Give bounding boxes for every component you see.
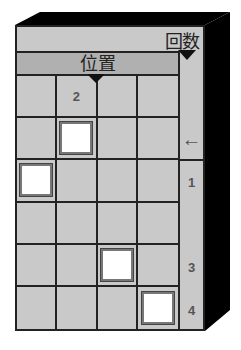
count-column: ← 1 3 4 — [180, 51, 203, 329]
position-grid: 2 — [17, 76, 180, 329]
count-value: 3 — [188, 260, 195, 275]
grid-cell — [98, 118, 138, 160]
grid-cell — [17, 76, 57, 118]
grid-cell — [17, 160, 57, 202]
white-square — [142, 292, 174, 324]
grid-cell — [17, 118, 57, 160]
grid-cell — [98, 203, 138, 245]
position-label: 位置 — [80, 53, 116, 74]
grid-cell — [57, 203, 97, 245]
grid-cell — [138, 160, 178, 202]
grid-cell — [57, 245, 97, 287]
diagram-panel: 回数 位置 2 ← — [15, 25, 205, 331]
grid-cell — [138, 118, 178, 160]
grid-cell — [138, 287, 178, 329]
grid-cell — [17, 203, 57, 245]
count-cell-row6: 4 — [180, 289, 203, 331]
left-arrow-icon: ← — [182, 128, 202, 151]
grid-cell — [98, 160, 138, 202]
grid-cell — [138, 76, 178, 118]
position-header: 位置 — [17, 51, 180, 76]
white-square — [20, 164, 52, 196]
grid-cell — [17, 287, 57, 329]
count-cell-row2: ← — [180, 118, 203, 160]
grid-cell — [138, 245, 178, 287]
count-value: 1 — [188, 175, 195, 190]
grid-cell — [17, 245, 57, 287]
cell-number: 2 — [73, 89, 80, 104]
grid-cell — [57, 287, 97, 329]
count-header: 回数 — [17, 27, 203, 51]
grid-cell — [57, 160, 97, 202]
grid-cell — [98, 245, 138, 287]
grid-cell — [138, 203, 178, 245]
position-down-arrow-icon — [87, 74, 105, 83]
white-square — [101, 249, 133, 281]
count-value: 4 — [188, 303, 195, 318]
count-cell-row5: 3 — [180, 246, 203, 288]
grid-cell — [57, 118, 97, 160]
grid-cell — [98, 287, 138, 329]
white-square — [60, 122, 92, 154]
count-cell-row3: 1 — [180, 161, 203, 203]
